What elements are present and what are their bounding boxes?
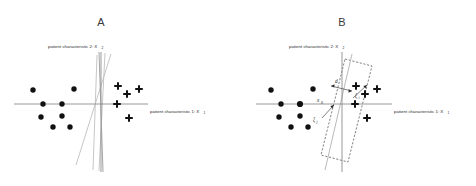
svg-text:i: i [359,96,360,100]
data-point-circle [297,113,302,118]
svg-text:2: 2 [102,46,104,50]
data-point-circle [278,101,283,106]
svg-text:j: j [316,120,318,124]
data-point-circle [59,113,64,118]
figure-canvas: A patient characteristic 2: X 2 patient … [0,0,476,186]
data-point-circle [297,101,303,107]
data-point-circle [276,114,281,119]
svg-text:patient characteristic 1: X: patient characteristic 1: X [394,109,443,114]
data-point-circle [305,124,310,129]
data-point-circle [38,114,43,119]
svg-text:patient characteristic 2: X: patient characteristic 2: X [48,44,97,49]
data-point-circle [288,124,293,129]
panel-a-title: A [97,16,105,28]
data-point-circle [71,86,76,91]
data-point-circle [310,86,315,91]
panel-b-title: B [338,16,345,28]
svg-text:patient characteristic 1: X: patient characteristic 1: X [150,109,199,114]
data-point-circle [40,101,45,106]
svg-text:1: 1 [448,111,450,115]
figure-background [0,0,476,186]
data-point-circle [268,87,273,92]
data-point-circle [50,124,55,129]
data-point-circle [30,87,35,92]
svg-text:1: 1 [204,111,206,115]
data-point-circle [67,124,72,129]
svg-text:d: d [335,78,338,84]
svg-text:patient characteristic 2: X: patient characteristic 2: X [289,44,338,49]
svg-text:0: 0 [321,101,323,105]
margin-label-d: d [335,78,338,84]
svm-figure: A patient characteristic 2: X 2 patient … [0,0,476,186]
svg-text:2: 2 [343,46,345,50]
data-point-circle [59,101,64,106]
